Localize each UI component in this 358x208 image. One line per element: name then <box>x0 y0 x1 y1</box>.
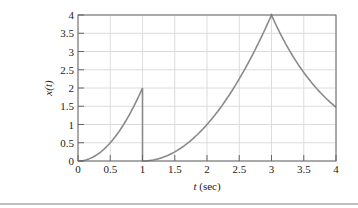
y-tick-label: 0 <box>69 155 75 167</box>
y-tick-label: 4 <box>69 9 75 21</box>
x-tick-labels: 00.511.522.533.54 <box>75 163 339 175</box>
y-tick-label: 2 <box>69 82 75 94</box>
y-tick-label: 2.5 <box>60 64 74 76</box>
x-tick-label: 1 <box>140 163 146 175</box>
x-tick-label: 2 <box>204 163 210 175</box>
x-tick-label: 1.5 <box>168 163 182 175</box>
x-tick-label: 2.5 <box>232 163 246 175</box>
x-tick-label: 3 <box>269 163 275 175</box>
y-tick-label: 3.5 <box>60 27 74 39</box>
y-tick-label: 0.5 <box>60 137 74 149</box>
chart: 00.511.522.533.54 00.511.522.533.54 t (s… <box>0 0 358 208</box>
y-tick-label: 1 <box>69 119 75 131</box>
y-tick-label: 1.5 <box>60 100 74 112</box>
x-tick-label: 4 <box>333 163 339 175</box>
x-tick-label: 3.5 <box>297 163 311 175</box>
y-tick-labels: 00.511.522.533.54 <box>60 9 74 167</box>
grid-lines <box>78 15 336 161</box>
x-tick-label: 0.5 <box>103 163 117 175</box>
x-tick-label: 0 <box>75 163 81 175</box>
y-axis-label: x(t) <box>42 80 55 97</box>
y-tick-label: 3 <box>69 46 75 58</box>
x-axis-label: t (sec) <box>193 180 221 193</box>
